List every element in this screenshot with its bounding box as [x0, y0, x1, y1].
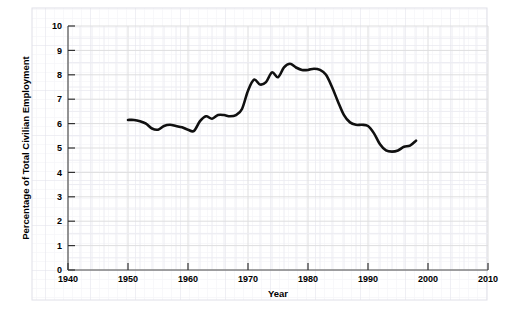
- x-tick-label: 1990: [358, 274, 378, 284]
- x-tick-label: 1940: [58, 274, 78, 284]
- y-tick-label: 3: [57, 192, 62, 202]
- x-tick-label: 2010: [478, 274, 498, 284]
- x-axis-title: Year: [268, 288, 288, 299]
- y-axis-title: Percentage of Total Civilian Employment: [20, 55, 31, 239]
- y-tick-label: 0: [57, 265, 62, 275]
- y-tick-label: 6: [57, 119, 62, 129]
- y-tick-label: 1: [57, 241, 62, 251]
- x-tick-label: 1960: [178, 274, 198, 284]
- x-tick-label: 1980: [298, 274, 318, 284]
- y-tick-label: 8: [57, 70, 62, 80]
- x-tick-label: 2000: [418, 274, 438, 284]
- y-tick-label: 5: [57, 143, 62, 153]
- y-tick-label: 10: [52, 21, 62, 31]
- y-tick-label: 9: [57, 46, 62, 56]
- y-tick-label: 7: [57, 94, 62, 104]
- plot-grid: [68, 26, 488, 270]
- x-tick-label: 1970: [238, 274, 258, 284]
- line-chart-svg: 1940 1950 1960 1970 1980 1990 2000 2010 …: [0, 0, 519, 325]
- y-tick-label: 4: [57, 168, 62, 178]
- x-tick-label: 1950: [118, 274, 138, 284]
- chart-figure: 1940 1950 1960 1970 1980 1990 2000 2010 …: [0, 0, 519, 325]
- y-tick-label: 2: [57, 216, 62, 226]
